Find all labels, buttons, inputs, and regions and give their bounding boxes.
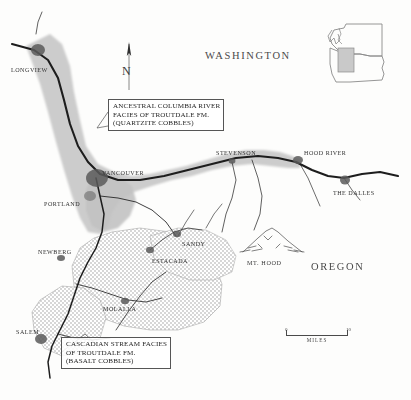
- peak-label-mount-hood: MT. HOOD: [247, 259, 282, 266]
- state-label-washington: WASHINGTON: [205, 50, 291, 61]
- scale-bar-units: MILES: [286, 337, 348, 343]
- state-label-oregon: OREGON: [311, 261, 364, 272]
- callout-quartzite-line-1: ANCESTRAL COLUMBIA RIVER: [113, 102, 220, 111]
- callout-basalt-line-1: CASCADIAN STREAM FACIES: [66, 340, 167, 349]
- city-label-estacada: ESTACADA: [152, 258, 188, 264]
- callout-basalt-line-3: (BASALT COBBLES): [66, 357, 167, 366]
- city-label-newberg: NEWBERG: [38, 249, 72, 255]
- callout-quartzite-line-3: (QUARTZITE COBBLES): [113, 119, 220, 128]
- city-label-vancouver: VANCOUVER: [102, 170, 144, 176]
- callout-basalt-facies: CASCADIAN STREAM FACIES OF TROUTDALE FM.…: [61, 337, 171, 369]
- city-label-molalla: MOLALLA: [103, 306, 136, 312]
- scale-bar-rule: 0 10: [286, 328, 348, 336]
- city-label-portland: PORTLAND: [44, 201, 80, 207]
- callout-basalt-line-2: OF TROUTDALE FM.: [66, 349, 167, 358]
- north-arrow: N: [118, 40, 140, 92]
- city-label-stevenson: STEVENSON: [216, 150, 256, 156]
- city-label-longview: LONGVIEW: [11, 67, 48, 73]
- scale-bar-min: 0: [285, 327, 288, 332]
- callout-quartzite-facies: ANCESTRAL COLUMBIA RIVER FACIES OF TROUT…: [108, 99, 224, 131]
- callout-quartzite-line-2: FACIES OF TROUTDALE FM.: [113, 111, 220, 120]
- north-arrow-letter: N: [122, 64, 131, 79]
- map-canvas: N WASHINGTON OREGON LONGVIEW VANCOUVER P…: [0, 0, 411, 400]
- city-label-salem: SALEM: [16, 329, 39, 335]
- scale-bar: 0 10 MILES: [286, 328, 348, 343]
- city-label-hood-river: HOOD RIVER: [304, 150, 346, 156]
- scale-bar-max: 10: [346, 327, 351, 332]
- city-label-sandy: SANDY: [182, 241, 206, 247]
- inset-locator-map: [316, 14, 394, 88]
- city-label-the-dalles: THE DALLES: [333, 190, 375, 196]
- mount-hood-symbol: [240, 228, 304, 252]
